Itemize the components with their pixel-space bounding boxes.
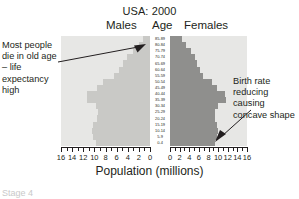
axis-minor-tick xyxy=(233,147,234,151)
axis-minor-tick xyxy=(242,147,243,151)
axis-tick-label: 16 xyxy=(57,152,65,163)
axis-tick-label: 8 xyxy=(103,152,107,163)
column-header-females: Females xyxy=(184,19,228,31)
axis-tick-label: 8 xyxy=(206,152,210,163)
axis-minor-tick xyxy=(78,147,79,151)
bar-row xyxy=(61,140,150,146)
axis-minor-tick xyxy=(122,147,123,151)
age-group-label: 0-4 xyxy=(150,140,170,146)
bar xyxy=(96,140,151,146)
axis-tick-label: 10 xyxy=(214,152,222,163)
axis-tick-label: 6 xyxy=(115,152,119,163)
population-pyramid-figure: USA: 2000 Males Age Females 85-8980-8475… xyxy=(0,0,299,199)
axis-tick-label: 2 xyxy=(137,152,141,163)
axis-tick-label: 4 xyxy=(187,152,191,163)
axis-minor-tick xyxy=(100,147,101,151)
axis-tick-label: 0 xyxy=(168,152,172,163)
axis-minor-tick xyxy=(184,147,185,151)
axis-tick-label: 2 xyxy=(178,152,182,163)
chart-title: USA: 2000 xyxy=(0,5,299,17)
axis-tick-label: 6 xyxy=(197,152,201,163)
x-axis-title: Population (millions) xyxy=(0,164,299,178)
axis-tick-label: 16 xyxy=(243,152,251,163)
column-header-males: Males xyxy=(106,19,137,31)
axis-tick-label: 0 xyxy=(148,152,152,163)
axis-minor-tick xyxy=(175,147,176,151)
females-axis-tick-labels: 0246810121416 xyxy=(170,152,247,163)
males-axis-tick-labels: 1614121086420 xyxy=(61,152,150,163)
axis-tick-label: 10 xyxy=(90,152,98,163)
axis-minor-tick xyxy=(133,147,134,151)
axis-tick-label: 4 xyxy=(126,152,130,163)
axis-minor-tick xyxy=(223,147,224,151)
axis-minor-tick xyxy=(144,147,145,151)
axis-minor-tick xyxy=(204,147,205,151)
axis-minor-tick xyxy=(89,147,90,151)
axis-minor-tick xyxy=(213,147,214,151)
axis-minor-tick xyxy=(194,147,195,151)
annotation-left-arrow xyxy=(58,44,146,66)
axis-tick-label: 14 xyxy=(233,152,241,163)
axis-minor-tick xyxy=(111,147,112,151)
axis-tick-label: 12 xyxy=(79,152,87,163)
annotation-right-arrow xyxy=(215,108,253,142)
column-header-age: Age xyxy=(152,19,172,31)
axis-minor-tick xyxy=(67,147,68,151)
annotation-left-text: Most people die in old age – life expect… xyxy=(2,40,64,96)
axis-tick-label: 14 xyxy=(68,152,76,163)
age-group-labels: 85-8980-8475-7970-7465-6960-6455-5950-54… xyxy=(150,36,170,146)
axis-tick-label: 12 xyxy=(224,152,232,163)
cutoff-caption: Stage 4 xyxy=(2,188,33,198)
bar xyxy=(170,140,215,146)
